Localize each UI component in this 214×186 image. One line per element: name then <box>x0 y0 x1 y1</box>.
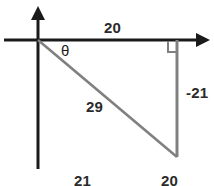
label-bottom-right: 20 <box>161 173 178 186</box>
label-angle-theta: θ <box>61 43 70 58</box>
x-axis-arrow-icon <box>196 33 210 47</box>
y-axis-arrow-icon <box>31 6 45 20</box>
triangle-hypotenuse <box>38 40 177 157</box>
label-bottom-left: 21 <box>74 173 91 186</box>
label-adjacent-top: 20 <box>104 20 121 35</box>
figure-canvas: 20 θ -21 29 21 20 <box>0 0 214 186</box>
label-opposite-right: -21 <box>186 85 208 100</box>
label-hypotenuse: 29 <box>86 99 103 114</box>
